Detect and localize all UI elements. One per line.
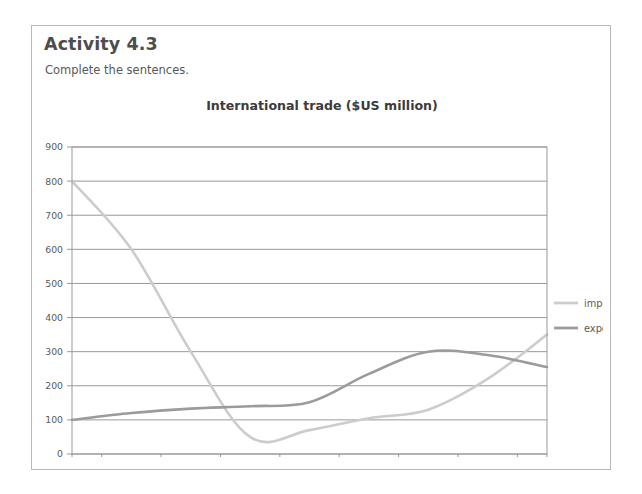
line-chart: 0100200300400500600700800900 20022003200…	[41, 121, 603, 457]
legend-label-imports: imports	[584, 298, 603, 309]
page-root: Activity 4.3 Complete the sentences. Int…	[0, 0, 642, 494]
y-axis-tick-label: 200	[45, 380, 63, 391]
chart-area: 0100200300400500600700800900 20022003200…	[41, 121, 603, 457]
y-axis-tick-label: 500	[45, 278, 63, 289]
y-axis-tick-label: 300	[45, 346, 63, 357]
activity-card: Activity 4.3 Complete the sentences. Int…	[31, 25, 611, 470]
legend-label-exports: exports	[584, 323, 603, 334]
y-axis-tick-label: 600	[45, 244, 63, 255]
chart-title: International trade ($US million)	[32, 98, 612, 113]
activity-instruction: Complete the sentences.	[45, 63, 189, 77]
y-axis-tick-label: 0	[57, 448, 63, 457]
y-axis-tick-label: 700	[45, 210, 63, 221]
y-axis-ticks-group: 0100200300400500600700800900	[45, 141, 72, 457]
y-axis-tick-label: 900	[45, 141, 63, 152]
activity-title: Activity 4.3	[44, 34, 158, 54]
y-axis-tick-label: 800	[45, 176, 63, 187]
y-axis-tick-label: 100	[45, 414, 63, 425]
y-axis-tick-label: 400	[45, 312, 63, 323]
